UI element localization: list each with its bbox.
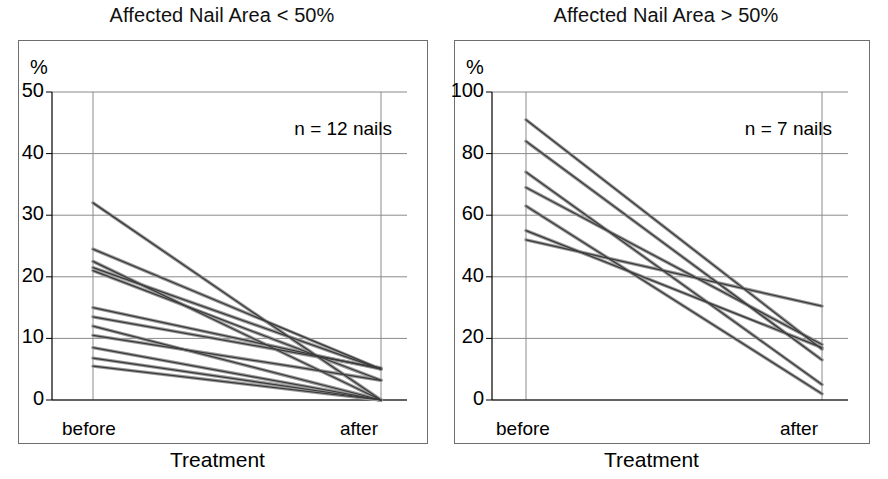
- panel-title-left: Affected Nail Area < 50%: [0, 4, 444, 27]
- y-tick-label: 20: [22, 264, 44, 287]
- chart-panel-left: Affected Nail Area < 50% 01020304050%n =…: [0, 0, 444, 479]
- y-tick-label: 60: [462, 202, 484, 225]
- y-tick-label: 100: [451, 79, 484, 102]
- sample-size-annotation: n = 7 nails: [745, 118, 832, 140]
- y-tick-label: 30: [22, 202, 44, 225]
- panel-title-right: Affected Nail Area > 50%: [444, 4, 888, 27]
- y-tick-label: 80: [462, 141, 484, 164]
- plot-frame-right: [454, 40, 870, 444]
- figure-root: Affected Nail Area < 50% 01020304050%n =…: [0, 0, 888, 479]
- y-tick-label: 40: [22, 141, 44, 164]
- sample-size-annotation: n = 12 nails: [294, 118, 392, 140]
- x-category-label-after: after: [780, 418, 818, 440]
- x-category-label-after: after: [340, 418, 378, 440]
- y-tick-label: 20: [462, 325, 484, 348]
- y-axis-unit-label: %: [466, 56, 484, 79]
- x-axis-title: Treatment: [170, 448, 265, 472]
- y-axis-unit-label: %: [30, 56, 48, 79]
- y-tick-label: 0: [473, 387, 484, 410]
- chart-panel-right: Affected Nail Area > 50% 020406080100%n …: [444, 0, 888, 479]
- y-tick-label: 40: [462, 264, 484, 287]
- plot-frame-left: [18, 40, 428, 444]
- y-tick-label: 50: [22, 79, 44, 102]
- x-category-label-before: before: [496, 418, 550, 440]
- y-tick-label: 0: [33, 387, 44, 410]
- x-category-label-before: before: [62, 418, 116, 440]
- x-axis-title: Treatment: [604, 448, 699, 472]
- y-tick-label: 10: [22, 325, 44, 348]
